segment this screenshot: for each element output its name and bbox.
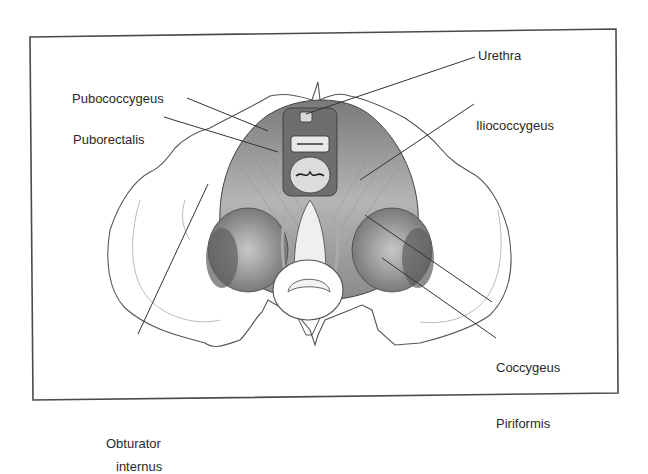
label-puborectalis: Puborectalis: [73, 132, 145, 147]
label-coccygeus: Coccygeus: [496, 360, 560, 375]
label-pubococcygeus: Pubococcygeus: [72, 91, 164, 106]
label-obturator-internus-line1: Obturator: [106, 436, 161, 451]
leader-urethra: [306, 57, 475, 114]
label-iliococcygeus: Iliococcygeus: [476, 118, 554, 133]
label-urethra: Urethra: [478, 48, 521, 63]
sacral-canal: [273, 260, 343, 320]
label-obturator-internus-line2: internus: [116, 459, 162, 474]
label-piriformis: Piriformis: [496, 416, 550, 431]
